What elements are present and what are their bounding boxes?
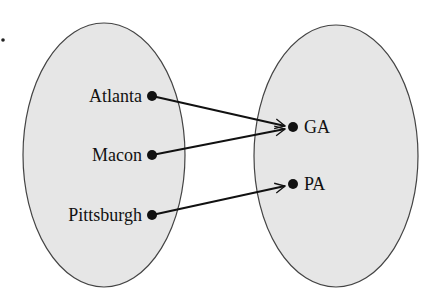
range-ellipse bbox=[254, 25, 418, 287]
label-ga: GA bbox=[304, 117, 330, 137]
point-ga bbox=[288, 122, 298, 132]
label-pa: PA bbox=[304, 174, 325, 194]
label-atlanta: Atlanta bbox=[89, 86, 142, 106]
point-pa bbox=[288, 179, 298, 189]
point-atlanta bbox=[147, 91, 157, 101]
point-macon bbox=[147, 150, 157, 160]
label-macon: Macon bbox=[92, 145, 142, 165]
point-pittsburgh bbox=[147, 210, 157, 220]
mapping-diagram: Atlanta Macon Pittsburgh GA PA bbox=[0, 0, 431, 302]
label-pittsburgh: Pittsburgh bbox=[68, 205, 142, 225]
stray-dot bbox=[1, 38, 5, 42]
